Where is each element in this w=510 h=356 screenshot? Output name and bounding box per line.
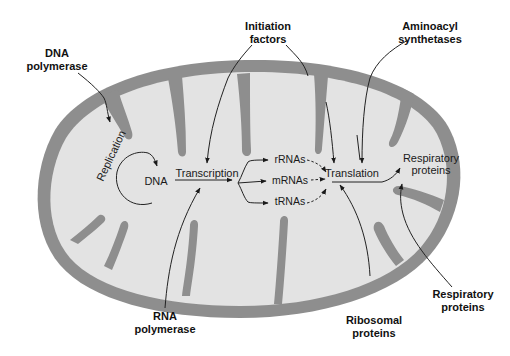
svg-text:polymerase: polymerase: [134, 323, 195, 335]
label-trnas: tRNAs: [275, 195, 305, 207]
label-rrnas: rRNAs: [275, 153, 306, 165]
svg-text:Initiation: Initiation: [245, 20, 291, 32]
svg-text:polymerase: polymerase: [26, 60, 87, 72]
label-dna-polymerase: DNA polymerase: [26, 47, 87, 72]
svg-text:DNA: DNA: [45, 47, 69, 59]
svg-text:Respiratory: Respiratory: [403, 152, 460, 164]
label-transcription: Transcription: [175, 167, 238, 179]
svg-text:RNA: RNA: [153, 310, 177, 322]
svg-text:synthetases: synthetases: [398, 33, 462, 45]
svg-text:Ribosomal: Ribosomal: [346, 314, 402, 326]
svg-text:proteins: proteins: [352, 327, 395, 339]
label-ribosomal-proteins: Ribosomal proteins: [346, 314, 402, 339]
label-respiratory-proteins-external: Respiratory proteins: [432, 288, 494, 313]
svg-text:Aminoacyl: Aminoacyl: [402, 20, 458, 32]
svg-text:proteins: proteins: [411, 164, 451, 176]
svg-text:Respiratory: Respiratory: [432, 288, 494, 300]
label-translation: Translation: [325, 167, 379, 179]
label-dna: DNA: [144, 175, 168, 187]
label-mrnas: mRNAs: [272, 174, 308, 186]
mitochondrion-diagram: DNA polymerase Initiation factors Aminoa…: [0, 0, 510, 356]
label-aminoacyl-synthetases: Aminoacyl synthetases: [398, 20, 462, 45]
svg-text:proteins: proteins: [441, 301, 484, 313]
label-initiation-factors: Initiation factors: [245, 20, 291, 45]
svg-text:factors: factors: [250, 33, 287, 45]
